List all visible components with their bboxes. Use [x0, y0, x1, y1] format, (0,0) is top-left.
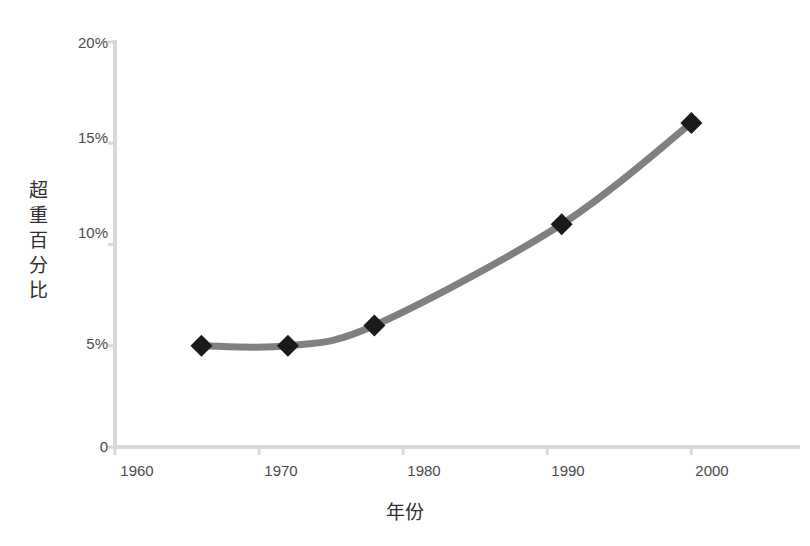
- data-point-marker: [363, 315, 385, 337]
- data-point-marker: [190, 335, 212, 357]
- data-point-marker: [277, 335, 299, 357]
- plot-area: [0, 0, 810, 546]
- axis-lines: [115, 40, 800, 449]
- chart-container: 超 重 百 分 比 20% 15% 10% 5% 0 1960 1970 198…: [0, 0, 810, 546]
- data-line: [201, 123, 691, 347]
- data-markers: [190, 112, 702, 357]
